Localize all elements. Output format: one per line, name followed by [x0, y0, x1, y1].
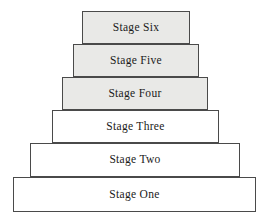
pyramid-level-3: Stage Three [52, 110, 219, 143]
pyramid-level-label: Stage Three [106, 121, 164, 133]
pyramid-level-label: Stage Six [113, 22, 159, 34]
pyramid-level-2: Stage Two [30, 143, 240, 177]
pyramid-level-4: Stage Four [62, 77, 208, 110]
pyramid-level-label: Stage Four [108, 88, 161, 100]
pyramid-level-label: Stage Two [109, 154, 160, 166]
stepped-pyramid-diagram: Stage SixStage FiveStage FourStage Three… [0, 0, 269, 220]
pyramid-level-5: Stage Five [73, 44, 199, 77]
pyramid-level-1: Stage One [13, 177, 256, 212]
pyramid-level-label: Stage One [109, 189, 159, 201]
pyramid-level-label: Stage Five [110, 55, 162, 67]
pyramid-level-6: Stage Six [82, 11, 190, 44]
